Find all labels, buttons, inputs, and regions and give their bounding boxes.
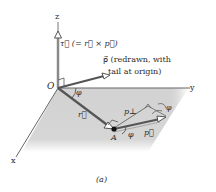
- r-vector-label: r⃗: [78, 111, 87, 119]
- x-axis-label: x: [11, 157, 16, 165]
- figure-caption: (a): [96, 176, 107, 184]
- y-axis-label: y: [190, 84, 195, 92]
- diagram-graphics: [0, 0, 216, 192]
- p-vector-label: p⃗: [144, 129, 154, 137]
- phi-a-label: φ: [128, 131, 134, 139]
- p-redrawn-label-1: p⃗ (redrawn, with: [103, 56, 171, 64]
- p-perp-label: p⊥: [124, 108, 137, 116]
- p-redrawn-vector: [58, 76, 104, 88]
- p-redrawn-label-2: tail at origin): [108, 68, 161, 76]
- point-a: [111, 126, 116, 131]
- phi-tip-label: φ: [166, 104, 172, 112]
- point-a-label: A: [111, 134, 117, 142]
- torque-label: τ⃗ (= r⃗ × p⃗): [60, 40, 118, 48]
- origin-label: O: [47, 82, 54, 91]
- torque-arrowhead: [55, 31, 62, 38]
- phi-origin-label: φ: [76, 89, 82, 97]
- z-axis-label: z: [55, 13, 59, 21]
- torque-diagram: z y x O τ⃗ (= r⃗ × p⃗) p⃗ (redrawn, with…: [0, 0, 216, 192]
